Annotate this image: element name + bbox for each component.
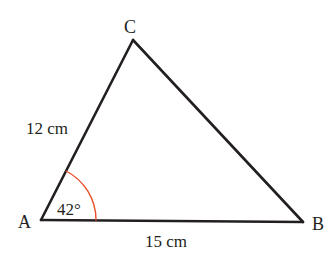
vertex-label-B: B — [312, 214, 324, 234]
vertex-label-A: A — [18, 212, 31, 232]
vertex-label-C: C — [124, 17, 136, 37]
side-label-AC: 12 cm — [26, 119, 68, 138]
triangle-diagram: C A B 12 cm 15 cm 42° — [0, 0, 334, 256]
side-BC — [133, 40, 303, 222]
side-AB — [41, 220, 303, 222]
angle-label-A: 42° — [57, 200, 81, 219]
side-label-AB: 15 cm — [145, 232, 187, 251]
